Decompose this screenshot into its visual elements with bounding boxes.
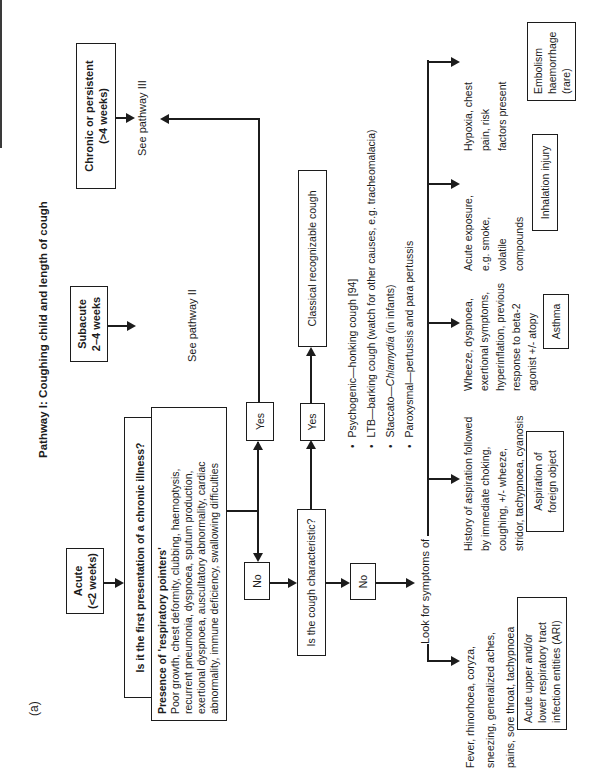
subacute-subtitle: 2–4 weeks [89,297,103,351]
cough-type-1: Psychogenic—honking cough [94] [343,279,362,438]
arrow-yes2-classical-head [306,347,316,356]
ari-box: Acute upper and/or lower respiratory tra… [517,597,567,730]
inhalation-symptoms-text: Acute exposure, e.g. smoke, volatile com… [460,195,528,271]
subacute-title: Subacute [75,299,89,349]
inhalation-branch-head [451,179,460,189]
bullet-icon: • [343,444,362,448]
asthma-box: Asthma [543,294,569,349]
question2-box: Is the cough characteristic? [297,509,326,656]
connector-question1-junction [227,510,259,512]
question1-text: Is it the first presentation of a chroni… [134,443,147,673]
list-item: • Paroxysmal—pertussis and para pertussi… [400,130,419,448]
bullet-icon: • [381,444,400,448]
pointers-heading: Presence of 'respiratory pointers' [156,547,169,714]
bullet-icon: • [362,444,381,448]
aspiration-branch-line [427,478,453,480]
arrow-subacute-head [127,321,136,331]
inhalation-branch-line [427,183,453,185]
list-item: • LTB—barking cough (watch for other cau… [362,130,381,448]
cough-type-3: Staccato—Chlamydia (in infants) [381,285,400,438]
figure-label: (a) [28,701,41,716]
list-item: • Staccato—Chlamydia (in infants) [381,130,400,448]
fever-branch-line [427,660,453,662]
figure-title: Pathway I: Coughing child and length of … [37,201,50,458]
asthma-branch-line [427,322,453,324]
yes1-route-head [160,114,169,124]
chronic-box: Chronic or persistent (>4 weeks) [76,43,116,189]
pointers-line: exertional dyspnoea, auscultatory abnorm… [195,461,208,714]
aspiration-branch-head [451,474,460,484]
aspiration-box: Aspiration of foreign object [526,431,564,532]
question2-text: Is the cough characteristic? [305,519,318,647]
yes1-route-horizontal [258,118,260,402]
asthma-branch-head [451,318,460,328]
arrow-no1-to-question2-head [288,578,297,588]
fever-symptoms-text: Fever, rhinorhoea, coryza, sneezing, gen… [460,627,520,768]
chronic-subtitle: (>4 weeks) [96,88,110,144]
scanned-figure-page: (a) Pathway I: Coughing child and length… [0,0,597,778]
arrow-question2-yes2-line [310,448,312,509]
embolism-branch-line [427,61,453,63]
list-item: • Psychogenic—honking cough [94] [343,130,362,448]
cough-type-2: LTB—barking cough (watch for other cause… [362,130,381,438]
chronic-title: Chronic or persistent [82,60,96,171]
no1-box: No [244,562,270,600]
pointers-line: abnormality, immune deficiency, swallowi… [208,463,221,714]
embolism-box: Embolism haemorrhage (rare) [527,22,576,101]
cough-types-list: • Psychogenic—honking cough [94] • LTB—b… [343,130,419,448]
yes2-box: Yes [300,403,325,441]
see-pathway-iii-label: See pathway III [136,80,149,156]
aspiration-symptoms-text: History of aspiration followed by immedi… [460,416,528,551]
yes1-route-vertical [168,118,260,120]
junction-bar-yes-no [257,442,259,556]
symptom-trunk-line [427,60,429,536]
look-for-symptoms-label: Look for symptoms of [419,539,432,644]
classical-cough-box: Classical recognizable cough [298,170,327,347]
arrow-to-no1-head [253,553,263,562]
arrow-no2-look-head [406,578,415,588]
arrow-to-yes1-head [253,441,263,450]
arrow-no2-look-line [376,582,408,584]
acute-subtitle: (<2 weeks) [85,553,99,609]
subacute-box: Subacute 2–4 weeks [70,286,108,362]
cough-pathway-flowchart: (a) Pathway I: Coughing child and length… [0,0,597,778]
no1-label: No [251,574,264,587]
respiratory-pointers-box: Presence of 'respiratory pointers' Poor … [151,407,227,721]
inhalation-box: Inhalation injury [532,134,558,231]
cough-type-4: Paroxysmal—pertussis and para pertussis [400,241,419,438]
arrow-question2-yes2-head [306,440,316,449]
yes1-label: Yes [254,413,267,430]
arrow-yes2-classical-line [310,355,312,403]
yes2-label: Yes [306,413,319,430]
see-pathway-ii-label: See pathway II [186,289,199,362]
classical-cough-text: Classical recognizable cough [306,191,319,327]
no2-box: No [350,563,376,600]
arrow-chronic-head [126,113,135,123]
pointers-line: Poor growth, chest deformity, clubbing, … [169,468,182,714]
fever-branch-head [451,656,460,666]
embolism-symptoms-text: Hypoxia, chest pain, risk factors presen… [460,82,511,151]
asthma-symptoms-text: Wheeze, dyspnoea, exertional symptoms, h… [460,283,540,391]
pointers-line: recurrent pneumonia, dyspnoea, sputum pr… [182,471,195,714]
yes1-box: Yes [246,402,274,441]
acute-box: Acute (<2 weeks) [66,548,104,614]
arrow-question2-no2-head [341,578,350,588]
arrow-acute-to-question-head [115,578,124,588]
embolism-branch-head [451,57,460,67]
bullet-icon: • [400,444,419,448]
acute-title: Acute [71,566,85,597]
arrow-subacute-line [108,325,128,327]
no2-label: No [357,575,370,588]
